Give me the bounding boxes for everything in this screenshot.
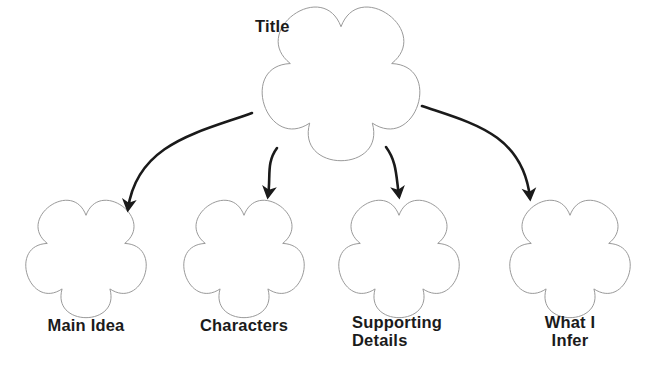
arrow-to-supporting-details: [386, 147, 399, 196]
child-node-shape-0: [26, 200, 146, 317]
child-node-shape-3: [510, 200, 630, 317]
node-label-characters: Characters: [200, 316, 288, 334]
arrow-to-what-i-infer: [422, 106, 530, 198]
arrow-to-main-idea: [128, 113, 252, 209]
child-node-shape-1: [184, 200, 304, 317]
node-label-supporting-details: Supporting Details: [352, 313, 442, 350]
shapes-layer: [26, 7, 630, 318]
graphic-organizer-diagram: Title Main Idea Characters Supporting De…: [0, 0, 651, 370]
node-label-what-i-infer: What I Infer: [545, 313, 596, 350]
arrow-to-characters: [268, 148, 277, 196]
child-node-shape-2: [339, 200, 459, 317]
node-label-main-idea: Main Idea: [48, 316, 125, 334]
title-node-label: Title: [255, 17, 290, 35]
